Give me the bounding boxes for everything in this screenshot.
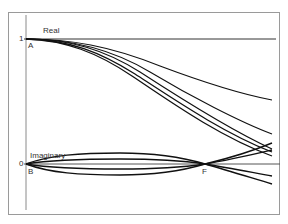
real-curve-5 [26,39,272,156]
point-b-label: B [28,168,33,176]
real-curve-4 [26,39,272,152]
imaginary-label: Imaginary [30,152,65,160]
tick-one-label: 1 [19,35,23,43]
imaginary-curve-4 [26,164,272,184]
real-curves [26,39,272,156]
tick-zero-label: 0 [19,160,23,168]
real-curve-2 [26,39,272,134]
real-curve-1 [26,39,272,100]
point-a-label: A [28,42,33,50]
point-f-label: F [202,168,207,176]
real-curve-3 [26,39,272,149]
real-label: Real [43,27,59,35]
